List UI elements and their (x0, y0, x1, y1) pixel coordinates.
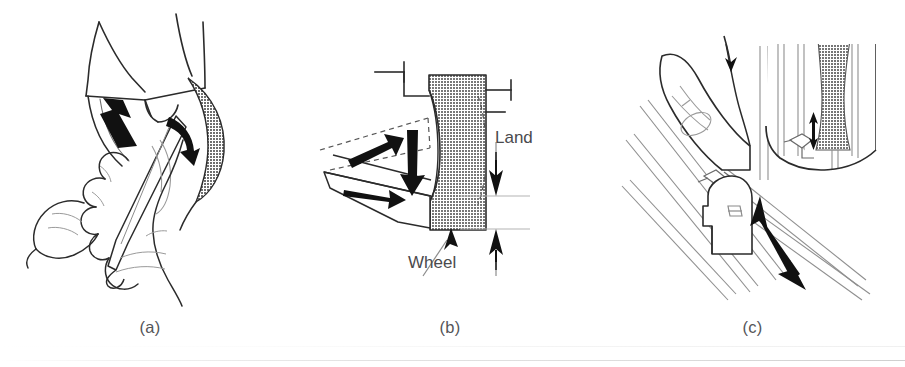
panel-b: Land Wheel (b) (300, 0, 600, 367)
scan-artifact-line-upper (0, 346, 905, 347)
panel-b-caption: (b) (300, 318, 600, 337)
wheel-label: Wheel (408, 253, 456, 273)
panel-b-artwork: Land Wheel (300, 0, 600, 318)
panel-a: (a) (0, 0, 300, 367)
tool-holder-icon (703, 176, 752, 254)
inset-detail-icon (766, 40, 876, 170)
grinding-wheel-icon (429, 75, 486, 230)
figure-container: (a) (0, 0, 905, 367)
panel-c: (c) (600, 0, 905, 367)
plunge-arrow-icon (400, 130, 425, 196)
feed-curve-arrow-icon (724, 36, 737, 72)
curved-arrow-up-icon (100, 98, 137, 148)
land-label: Land (495, 128, 533, 148)
dimension-arrow-icon (489, 152, 503, 270)
panel-c-artwork (600, 0, 905, 318)
panel-a-artwork (0, 0, 300, 318)
scan-artifact-line-lower (0, 360, 905, 361)
panel-a-caption: (a) (0, 318, 300, 337)
panel-c-caption: (c) (600, 318, 905, 337)
